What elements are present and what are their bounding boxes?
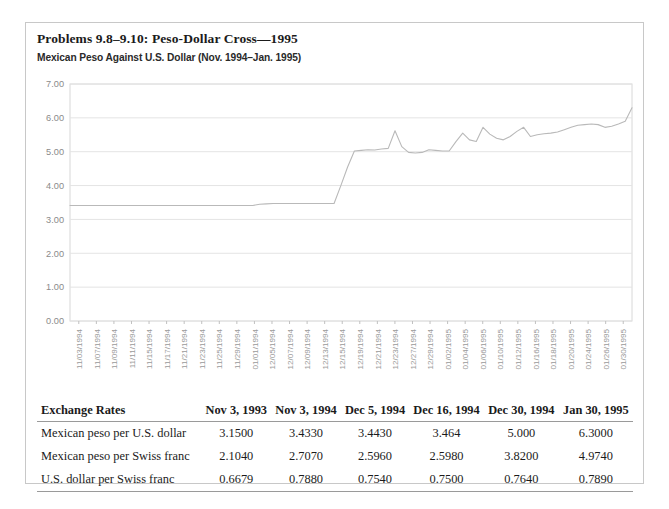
table-cell: 2.5960: [341, 445, 409, 468]
x-axis-tick-label: 01/04/1995: [461, 329, 470, 370]
y-axis-tick-label: 5.00: [46, 147, 64, 157]
x-axis-tick-label: 11/15/1994: [145, 329, 154, 369]
x-axis-tick-label: 12/19/1994: [356, 329, 365, 370]
column-header-dec-30-1994: Dec 30, 1994: [484, 399, 559, 422]
column-header-dec-16-1994: Dec 16, 1994: [409, 399, 484, 422]
column-header-label: Exchange Rates: [37, 399, 201, 422]
table-cell: 0.7640: [484, 468, 559, 492]
table-head: Exchange Rates Nov 3, 1993 Nov 3, 1994 D…: [37, 399, 633, 422]
column-header-dec-5-1994: Dec 5, 1994: [341, 399, 409, 422]
chart-subtitle: Mexican Peso Against U.S. Dollar (Nov. 1…: [37, 52, 301, 63]
table-cell: 5.000: [484, 422, 559, 446]
table-cell: 2.7070: [271, 445, 341, 468]
x-axis-tick-label: 12/15/1994: [338, 329, 347, 370]
x-axis-tick-label: 01/24/1995: [584, 329, 593, 370]
y-axis-tick-labels: 7.006.005.004.003.002.001.000.00: [46, 79, 64, 326]
y-axis-tick-label: 0.00: [46, 316, 64, 326]
x-axis-tick-label: 11/17/1994: [163, 329, 172, 369]
line-chart: 7.006.005.004.003.002.001.000.00 11/03/1…: [37, 79, 634, 379]
table-cell: 3.8200: [484, 445, 559, 468]
x-axis-tick-label: 01/10/1995: [496, 329, 505, 370]
y-axis-tick-label: 2.00: [46, 249, 64, 259]
table-row: U.S. dollar per Swiss franc 0.6679 0.788…: [37, 468, 633, 492]
x-axis-tick-label: 01/18/1995: [549, 329, 558, 370]
column-header-jan-30-1995: Jan 30, 1995: [559, 399, 633, 422]
x-axis-tick-label: 01/30/1995: [619, 329, 628, 370]
y-axis-tick-label: 6.00: [46, 113, 64, 123]
table-cell: 3.4430: [341, 422, 409, 446]
table-row: Mexican peso per Swiss franc 2.1040 2.70…: [37, 445, 633, 468]
figure-panel: Problems 9.8–9.10: Peso-Dollar Cross—199…: [25, 22, 644, 484]
x-axis-tick-label: 12/05/1994: [268, 329, 277, 370]
exchange-rates-table: Exchange Rates Nov 3, 1993 Nov 3, 1994 D…: [37, 399, 633, 492]
x-axis-tick-label: 12/29/1994: [426, 329, 435, 370]
table-header-row: Exchange Rates Nov 3, 1993 Nov 3, 1994 D…: [37, 399, 633, 422]
x-axis-tick-labels: 11/03/199411/07/199411/09/199411/11/1994…: [75, 329, 628, 370]
y-axis-tick-label: 7.00: [46, 79, 64, 89]
column-header-nov-3-1994: Nov 3, 1994: [271, 399, 341, 422]
table-cell: 0.7540: [341, 468, 409, 492]
page-title: Problems 9.8–9.10: Peso-Dollar Cross—199…: [37, 31, 298, 47]
table-cell: 0.7880: [271, 468, 341, 492]
row-label: Mexican peso per U.S. dollar: [37, 422, 201, 446]
row-label: Mexican peso per Swiss franc: [37, 445, 201, 468]
x-axis-tick-label: 12/13/1994: [321, 329, 330, 370]
chart-svg: 7.006.005.004.003.002.001.000.00 11/03/1…: [37, 79, 634, 379]
table-cell: 4.9740: [559, 445, 633, 468]
x-axis-tick-label: 11/25/1994: [215, 329, 224, 369]
plot-background: [70, 84, 632, 321]
table-cell: 0.7890: [559, 468, 633, 492]
x-axis-tick-label: 01/06/1995: [479, 329, 488, 370]
x-axis-tick-label: 12/23/1994: [391, 329, 400, 370]
y-axis-tick-label: 4.00: [46, 181, 64, 191]
x-axis-tick-label: 11/07/1994: [93, 329, 102, 369]
x-axis-tick-label: 01/01/1994: [251, 329, 260, 370]
x-axis-tick-label: 11/09/1994: [110, 329, 119, 369]
x-axis-tick-label: 11/21/1994: [180, 329, 189, 369]
table-cell: 2.1040: [201, 445, 271, 468]
x-axis-tick-label: 12/21/1994: [374, 329, 383, 370]
y-axis-tick-label: 1.00: [46, 282, 64, 292]
table-cell: 3.4330: [271, 422, 341, 446]
x-axis-tick-label: 12/09/1994: [303, 329, 312, 370]
table-cell: 3.1500: [201, 422, 271, 446]
x-axis-tick-label: 01/02/1995: [444, 329, 453, 370]
row-label: U.S. dollar per Swiss franc: [37, 468, 201, 492]
table-cell: 0.7500: [409, 468, 484, 492]
x-axis-tick-label: 12/27/1994: [409, 329, 418, 370]
x-axis-tick-label: 01/20/1995: [567, 329, 576, 370]
table-row: Mexican peso per U.S. dollar 3.1500 3.43…: [37, 422, 633, 446]
table-cell: 0.6679: [201, 468, 271, 492]
x-axis-tick-label: 01/12/1995: [514, 329, 523, 370]
column-header-nov-3-1993: Nov 3, 1993: [201, 399, 271, 422]
x-axis-tick-label: 11/29/1994: [233, 329, 242, 369]
table-cell: 3.464: [409, 422, 484, 446]
table-cell: 6.3000: [559, 422, 633, 446]
x-axis-tick-label: 11/11/1994: [128, 329, 137, 369]
y-axis-tick-label: 3.00: [46, 215, 64, 225]
table-cell: 2.5980: [409, 445, 484, 468]
x-axis-tick-label: 11/23/1994: [198, 329, 207, 369]
table-body: Mexican peso per U.S. dollar 3.1500 3.43…: [37, 422, 633, 492]
plot-area: [70, 84, 632, 321]
x-axis-tick-label: 12/07/1994: [286, 329, 295, 370]
x-axis-tick-label: 01/16/1995: [532, 329, 541, 370]
x-axis-tick-label: 01/26/1995: [602, 329, 611, 370]
x-axis-tick-label: 11/03/1994: [75, 329, 84, 369]
